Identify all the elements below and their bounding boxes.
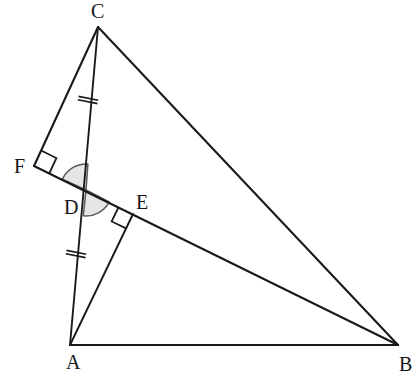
vertex-label-group: A B C D E F (14, 0, 412, 375)
vertex-label-f: F (14, 155, 25, 177)
vertex-label-c: C (91, 0, 104, 22)
vertex-label-e: E (136, 191, 148, 213)
angle-ADE-arc (83, 190, 109, 216)
vertex-label-a: A (66, 351, 81, 373)
geometry-diagram-canvas: A B C D E F (0, 0, 414, 378)
segment-fb (34, 166, 398, 345)
segment-cb (98, 27, 398, 345)
segment-group (34, 27, 398, 345)
vertex-label-d: D (64, 196, 78, 218)
congruence-tick-cd (78, 96, 98, 103)
vertex-label-b: B (399, 353, 412, 375)
congruence-tick-da (66, 250, 86, 257)
geometry-svg: A B C D E F (0, 0, 414, 378)
